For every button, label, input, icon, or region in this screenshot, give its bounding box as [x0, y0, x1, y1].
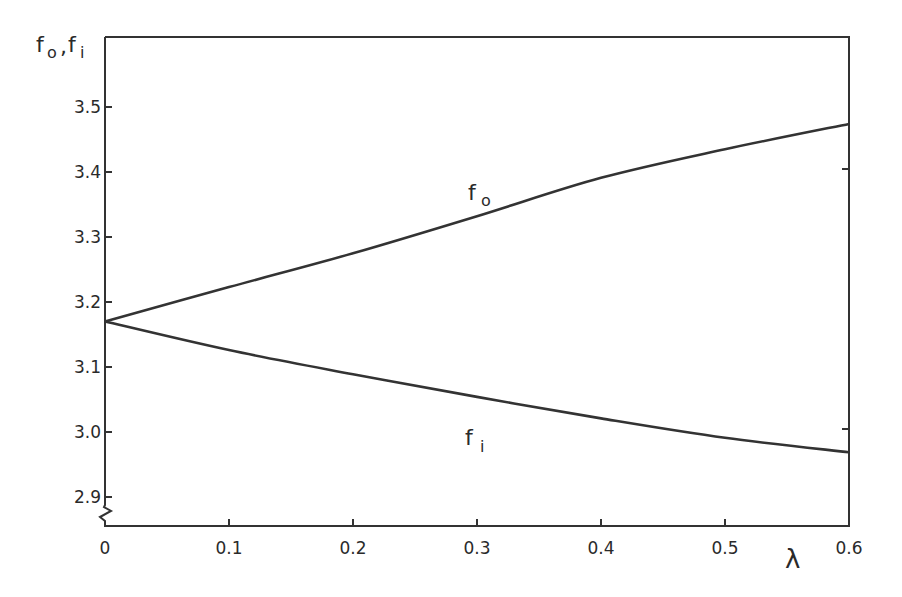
- y-axis-label: f o , f i: [36, 32, 84, 62]
- svg-text:i: i: [80, 43, 84, 62]
- x-tick-label: 0.5: [711, 538, 738, 558]
- svg-text:,: ,: [60, 34, 67, 59]
- svg-text:f: f: [468, 180, 477, 205]
- series-label-fo: f o: [468, 180, 491, 210]
- x-tick-label: 0: [100, 538, 111, 558]
- x-axis-label: λ: [785, 544, 800, 574]
- x-tick-label: 0.3: [463, 538, 490, 558]
- y-tick-label: 3.4: [74, 162, 101, 182]
- svg-text:i: i: [480, 437, 484, 456]
- y-tick-label: 3.2: [74, 292, 101, 312]
- y-tick-label: 3.0: [74, 422, 101, 442]
- svg-text:o: o: [47, 43, 57, 62]
- svg-text:f: f: [465, 425, 474, 450]
- y-axis-ticks: 2.93.03.13.23.33.43.5: [74, 97, 849, 507]
- y-tick-label: 2.9: [74, 487, 101, 507]
- series-curves: [105, 124, 849, 452]
- x-tick-label: 0.2: [339, 538, 366, 558]
- series-label-fi: f i: [465, 425, 484, 456]
- line-chart: 2.93.03.13.23.33.43.5 00.10.20.30.40.50.…: [0, 0, 902, 597]
- curve-fo: [105, 124, 849, 322]
- x-tick-label: 0.4: [587, 538, 614, 558]
- svg-text:f: f: [68, 32, 77, 57]
- y-tick-label: 3.5: [74, 97, 101, 117]
- x-axis-ticks: 00.10.20.30.40.50.6: [100, 519, 863, 558]
- x-tick-label: 0.1: [215, 538, 242, 558]
- x-tick-label: 0.6: [835, 538, 862, 558]
- curve-fi: [105, 322, 849, 453]
- svg-text:o: o: [481, 191, 491, 210]
- plot-frame: [100, 37, 849, 526]
- y-tick-label: 3.1: [74, 357, 101, 377]
- y-tick-label: 3.3: [74, 227, 101, 247]
- svg-text:f: f: [36, 32, 45, 57]
